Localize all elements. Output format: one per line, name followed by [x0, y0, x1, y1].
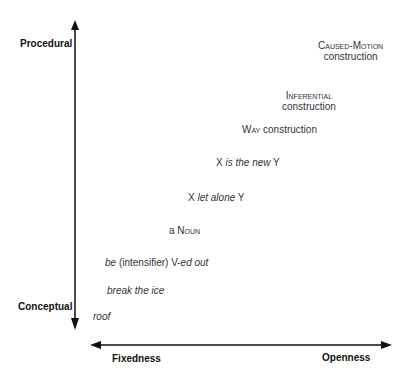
arrow-down-icon — [71, 318, 79, 330]
axis-label-procedural: Procedural — [20, 38, 72, 49]
item-way-construction: Way construction — [242, 124, 317, 135]
item-break-the-ice: break the ice — [107, 285, 164, 296]
item-roof: roof — [93, 311, 110, 322]
item-inferential: Inferential construction — [282, 90, 336, 112]
arrow-up-icon — [71, 20, 79, 30]
item-a-noun: a Noun — [169, 225, 200, 236]
arrow-right-icon — [381, 341, 392, 349]
item-caused-motion: Caused-Motion construction — [318, 40, 383, 62]
item-x-is-the-new-y: X is the new Y — [216, 157, 280, 168]
axis-label-fixedness: Fixedness — [112, 353, 161, 364]
axis-label-conceptual: Conceptual — [18, 301, 72, 312]
axis-label-openness: Openness — [322, 352, 370, 363]
item-x-let-alone-y: X let alone Y — [188, 192, 245, 203]
item-be-intensifier-ved-out: be (intensifier) V-ed out — [105, 257, 208, 268]
arrow-left-icon — [90, 341, 101, 349]
